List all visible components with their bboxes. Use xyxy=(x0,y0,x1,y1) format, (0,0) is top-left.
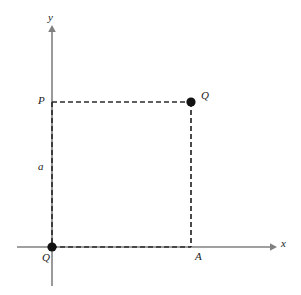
upper-right-point-dot xyxy=(186,97,195,106)
x-axis-arrowhead xyxy=(270,243,277,251)
label-a-point: A xyxy=(195,251,202,262)
label-y-axis: y xyxy=(48,12,53,23)
label-q-origin: Q xyxy=(42,252,50,263)
figure-canvas: P Q Q a A x y xyxy=(0,0,301,295)
label-p: P xyxy=(38,95,45,106)
label-x-axis: x xyxy=(281,238,286,249)
y-axis-arrowhead xyxy=(48,25,56,32)
label-q-upper-right: Q xyxy=(201,90,209,101)
label-a-side: a xyxy=(38,161,44,172)
